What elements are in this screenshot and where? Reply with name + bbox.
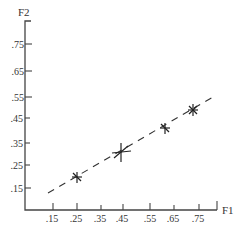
x-tick-labels: .15 .25 .35 .45 .55 .65 .75	[46, 213, 205, 224]
x-tick-label: .75	[192, 213, 205, 224]
y-ticks	[25, 44, 32, 188]
data-point-3	[160, 123, 170, 134]
x-tick-label: .15	[46, 213, 59, 224]
y-tick-label: .35	[11, 138, 24, 149]
data-point-1	[72, 172, 82, 183]
y-tick-label: .65	[12, 66, 25, 77]
y-tick-label: .15	[11, 183, 24, 194]
axes	[25, 21, 217, 210]
y-tick-label: .25	[11, 160, 24, 171]
y-tick-label: .75	[12, 39, 25, 50]
scatter-chart: F2 .75 .65 .55 .45 .35 .25 .15 .15 .25 .…	[0, 0, 238, 226]
data-point-4	[188, 104, 198, 116]
y-tick-label: .55	[12, 92, 25, 103]
x-ticks	[53, 203, 199, 210]
x-tick-label: .45	[116, 213, 129, 224]
y-tick-label: .45	[11, 113, 24, 124]
y-tick-labels: .75 .65 .55 .45 .35 .25 .15	[11, 39, 25, 194]
x-axis-label: F1	[222, 204, 234, 216]
y-axis-line	[25, 21, 217, 210]
x-tick-label: .55	[144, 213, 157, 224]
fit-line	[48, 97, 213, 193]
x-tick-label: .35	[94, 213, 107, 224]
x-tick-label: .25	[70, 213, 83, 224]
x-tick-label: .65	[167, 213, 180, 224]
y-axis-label: F2	[18, 6, 30, 18]
